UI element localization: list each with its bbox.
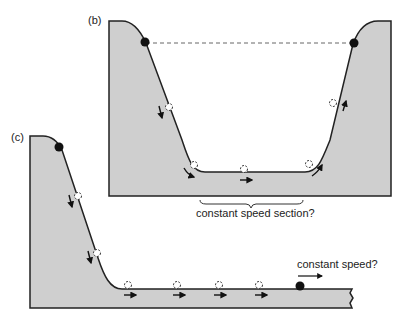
ghost-ball-icon bbox=[306, 161, 313, 168]
ghost-ball-icon bbox=[94, 250, 101, 257]
ball-end-icon bbox=[296, 282, 305, 291]
ghost-ball-icon bbox=[216, 282, 223, 289]
ghost-ball-icon bbox=[125, 282, 132, 289]
ghost-ball-icon bbox=[256, 282, 263, 289]
panel-b-label: (b) bbox=[88, 14, 101, 26]
ghost-ball-icon bbox=[75, 193, 82, 200]
ghost-ball-icon bbox=[191, 162, 198, 169]
ball-end-icon bbox=[350, 39, 359, 48]
panel-c-slope bbox=[30, 136, 353, 308]
panel-b-caption: constant speed section? bbox=[196, 207, 315, 219]
ball-start-icon bbox=[141, 38, 150, 47]
ghost-ball-icon bbox=[241, 166, 248, 173]
panel-b-valley bbox=[109, 21, 391, 208]
ghost-ball-icon bbox=[330, 100, 337, 107]
panel-c-caption: constant speed? bbox=[297, 258, 378, 270]
ball-start-icon bbox=[55, 143, 64, 152]
ghost-ball-icon bbox=[166, 104, 173, 111]
panel-c-label: (c) bbox=[11, 131, 24, 143]
ghost-ball-icon bbox=[174, 282, 181, 289]
